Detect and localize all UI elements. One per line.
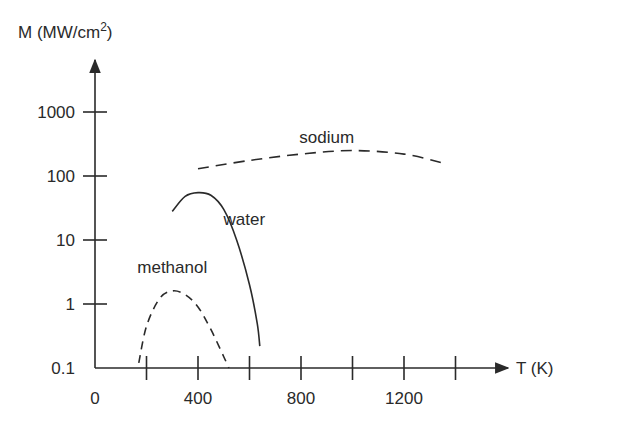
chart: 10001001010.104008001200M (MW/cm2)T (K)m… [0,0,642,431]
y-tick-label: 100 [47,167,75,186]
y-tick-label: 1000 [37,103,75,122]
y-tick-label: 10 [56,231,75,250]
x-axis-title: T (K) [516,359,553,378]
label-sodium: sodium [299,128,354,147]
series-sodium [198,151,443,169]
y-tick-label: 0.1 [51,359,75,378]
x-tick-label: 0 [90,389,99,408]
y-tick-label: 1 [66,295,75,314]
x-tick-label: 400 [184,389,212,408]
axes [95,60,508,368]
y-axis-title: M (MW/cm2) [18,20,113,42]
label-methanol: methanol [137,258,207,277]
ticks [83,112,456,380]
series-methanol [139,291,229,368]
labels: 10001001010.104008001200M (MW/cm2)T (K)m… [18,20,553,408]
x-tick-label: 1200 [385,389,423,408]
label-water: water [223,210,266,229]
x-tick-label: 800 [287,389,315,408]
